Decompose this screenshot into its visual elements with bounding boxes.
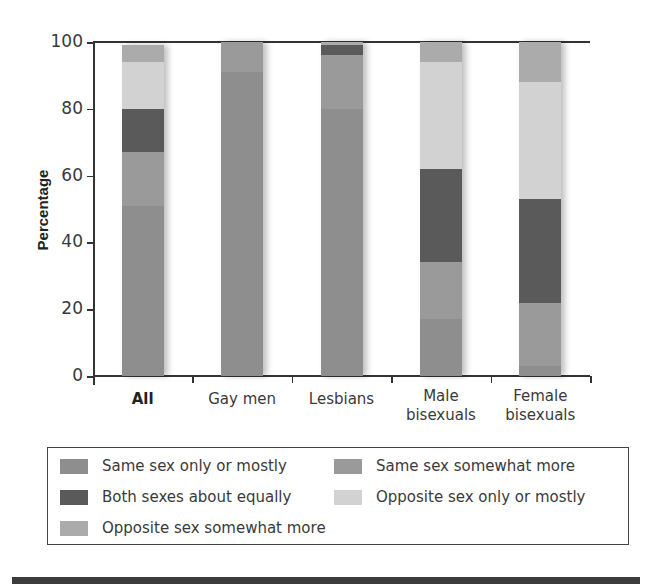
bar-segment [321, 109, 363, 376]
bar-segment [122, 206, 164, 376]
bar-segment [122, 152, 164, 205]
bar-segment [519, 366, 561, 376]
bar-segment [519, 42, 561, 82]
legend-label: Same sex only or mostly [102, 457, 287, 475]
legend: Same sex only or mostly Same sex somewha… [47, 447, 629, 545]
x-category-label: All [93, 390, 193, 409]
x-category-label: Femalebisexuals [490, 387, 590, 425]
legend-item-same-somewhat: Same sex somewhat more [334, 456, 575, 476]
y-tick-label: 60 [43, 165, 83, 185]
x-tick-mark [292, 376, 294, 383]
bar-segment [519, 82, 561, 199]
bar-segment [519, 303, 561, 366]
legend-label: Same sex somewhat more [376, 457, 575, 475]
bar-segment [122, 45, 164, 62]
legend-label: Opposite sex somewhat more [102, 519, 326, 537]
legend-item-opposite-only: Opposite sex only or mostly [334, 487, 585, 507]
bar-segment [321, 55, 363, 108]
bar-segment [420, 319, 462, 376]
bar-segment [420, 42, 462, 62]
bar-male-bisexuals [420, 42, 462, 376]
bar-segment [420, 169, 462, 263]
x-category-label: Malebisexuals [391, 387, 491, 425]
y-tick-label: 0 [43, 365, 83, 385]
bar-segment [420, 62, 462, 169]
bar-segment [122, 62, 164, 109]
legend-swatch [60, 490, 88, 505]
y-tick-label: 80 [43, 98, 83, 118]
legend-label: Opposite sex only or mostly [376, 488, 585, 506]
y-axis-line [93, 41, 95, 385]
bar-segment [420, 262, 462, 319]
legend-item-equal: Both sexes about equally [60, 487, 291, 507]
legend-swatch [60, 521, 88, 536]
bar-female-bisexuals [519, 42, 561, 376]
x-category-label: Lesbians [292, 390, 392, 409]
bar-segment [221, 72, 263, 376]
x-category-label: Gay men [192, 390, 292, 409]
bar-segment [221, 42, 263, 72]
legend-swatch [60, 459, 88, 474]
bar-segment [321, 45, 363, 55]
y-tick-label: 40 [43, 231, 83, 251]
bar-gay-men [221, 42, 263, 376]
bar-segment [122, 109, 164, 152]
legend-swatch [334, 459, 362, 474]
legend-swatch [334, 490, 362, 505]
bar-segment [519, 199, 561, 303]
x-tick-mark [590, 376, 592, 383]
legend-item-same-only: Same sex only or mostly [60, 456, 287, 476]
footer-divider-bar [12, 577, 640, 584]
legend-label: Both sexes about equally [102, 488, 291, 506]
x-tick-mark [391, 376, 393, 383]
stacked-bar-chart: Percentage 020406080100 AllGay menLesbia… [0, 0, 647, 584]
y-tick-label: 20 [43, 298, 83, 318]
bar-all [122, 45, 164, 376]
x-tick-mark [93, 376, 95, 383]
bar-segment [321, 42, 363, 45]
y-tick-label: 100 [43, 31, 83, 51]
legend-item-opposite-somewhat: Opposite sex somewhat more [60, 518, 326, 538]
x-tick-mark [491, 376, 493, 383]
bar-lesbians [321, 42, 363, 376]
x-tick-mark [192, 376, 194, 383]
